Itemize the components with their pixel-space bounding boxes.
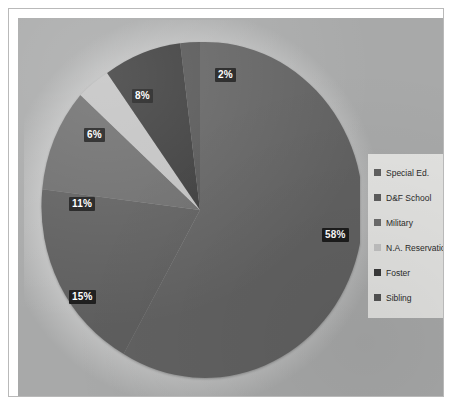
legend-label: Special Ed.: [386, 168, 429, 178]
legend-item-sibling[interactable]: Sibling: [374, 285, 444, 310]
pie-label-military: 11%: [69, 197, 95, 211]
legend-label: N.A. Reservation: [386, 243, 444, 253]
legend-swatch-icon: [374, 269, 381, 276]
legend-label: Foster: [386, 268, 410, 278]
legend-item-df-school[interactable]: D&F School: [374, 185, 444, 210]
legend-item-foster[interactable]: Foster: [374, 260, 444, 285]
pie-label-foster: 8%: [132, 89, 153, 103]
legend-item-na-reservation[interactable]: N.A. Reservation: [374, 235, 444, 260]
legend-label: Military: [386, 218, 413, 228]
pie-label-df-school: 15%: [69, 290, 96, 304]
pie-label-sibling: 2%: [215, 68, 236, 82]
legend-item-special-ed[interactable]: Special Ed.: [374, 160, 444, 185]
legend-swatch-icon: [374, 219, 381, 226]
pie-label-na-reservation: 6%: [84, 128, 105, 142]
pie-label-special-ed: 58%: [322, 228, 349, 242]
legend-label: Sibling: [386, 293, 412, 303]
chart-legend: Special Ed. D&F School Military N.A. Res…: [368, 154, 444, 318]
legend-swatch-icon: [374, 294, 381, 301]
legend-item-military[interactable]: Military: [374, 210, 444, 235]
legend-swatch-icon: [374, 194, 381, 201]
legend-swatch-icon: [374, 169, 381, 176]
legend-swatch-icon: [374, 244, 381, 251]
chart-plot-area: 58% 15% 11% 6% 8% 2% Special Ed. D&F Sch…: [18, 18, 444, 397]
chart-frame: 58% 15% 11% 6% 8% 2% Special Ed. D&F Sch…: [8, 8, 444, 397]
pie-chart: 58% 15% 11% 6% 8% 2%: [40, 40, 360, 380]
legend-label: D&F School: [386, 193, 431, 203]
